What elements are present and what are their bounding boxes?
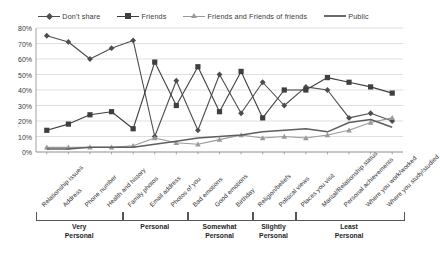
group-bracket-1: Personal — [122, 212, 187, 260]
data-point-marker — [44, 33, 50, 39]
legend-item-1[interactable]: Friends — [117, 12, 166, 21]
y-axis-tick-label: 50% — [18, 71, 32, 78]
legend-marker-diamond-icon — [38, 12, 60, 21]
bracket-shape — [122, 212, 189, 221]
legend-item-2[interactable]: Friends and Friends of friends — [183, 12, 307, 21]
x-axis-category-labels: Relationship issuesAddressPhone numberHe… — [36, 152, 403, 208]
group-bracket-0: VeryPersonal — [36, 212, 122, 260]
data-point-marker — [174, 103, 179, 108]
data-point-marker — [217, 72, 223, 78]
legend-label: Public — [348, 12, 368, 21]
legend-marker-square-icon — [117, 12, 139, 21]
y-axis-tick-label: 20% — [18, 118, 32, 125]
legend-label: Don't share — [62, 12, 100, 21]
bracket-shape — [295, 212, 405, 221]
data-point-marker — [195, 64, 200, 69]
group-label: VeryPersonal — [36, 223, 122, 240]
legend-label: Friends and Friends of friends — [207, 12, 307, 21]
legend-marker-triangle-icon — [183, 12, 205, 21]
data-point-marker — [282, 87, 287, 92]
data-point-marker — [238, 69, 243, 74]
data-point-marker — [152, 60, 157, 65]
legend-marker-none-icon — [324, 12, 346, 21]
data-point-marker — [303, 87, 308, 92]
line-chart-svg — [36, 28, 403, 152]
data-point-marker — [109, 109, 114, 114]
data-point-marker — [173, 78, 179, 84]
legend-item-3[interactable]: Public — [324, 12, 368, 21]
legend-item-0[interactable]: Don't share — [38, 12, 100, 21]
plot-area — [36, 28, 403, 152]
x-axis-category-label: Address — [61, 186, 83, 208]
y-axis-labels: 0%10%20%30%40%50%60%70%80% — [0, 28, 34, 158]
data-point-marker — [260, 115, 265, 120]
data-point-marker — [44, 128, 49, 133]
data-point-marker — [195, 127, 201, 133]
y-axis-tick-label: 70% — [18, 40, 32, 47]
group-label: SomewhatPersonal — [187, 223, 252, 240]
series-2 — [44, 115, 395, 149]
series-0 — [44, 33, 395, 140]
y-axis-tick-label: 40% — [18, 87, 32, 94]
legend-label: Friends — [141, 12, 166, 21]
y-axis-tick-label: 30% — [18, 102, 32, 109]
data-point-marker — [66, 122, 71, 127]
y-axis-tick-label: 80% — [18, 25, 32, 32]
data-point-marker — [130, 38, 136, 44]
y-axis-tick-label: 10% — [18, 133, 32, 140]
series-1 — [44, 60, 395, 133]
data-point-marker — [217, 109, 222, 114]
series-line — [47, 36, 392, 137]
chart-legend: Don't shareFriendsFriends and Friends of… — [0, 8, 407, 24]
group-label: Personal — [122, 223, 187, 232]
data-point-marker — [346, 80, 351, 85]
bracket-shape — [252, 212, 297, 221]
data-point-marker — [390, 91, 395, 96]
data-point-marker — [325, 75, 330, 80]
data-point-marker — [368, 84, 373, 89]
series-3 — [47, 119, 392, 148]
series-line — [47, 119, 392, 148]
plot-wrapper: 0%10%20%30%40%50%60%70%80% — [0, 28, 407, 158]
x-axis-category-label: Birthday — [234, 186, 256, 208]
data-point-marker — [368, 110, 374, 116]
data-point-marker — [131, 126, 136, 131]
bracket-shape — [36, 212, 124, 221]
group-label: LeastPersonal — [295, 223, 403, 240]
group-bracket-4: LeastPersonal — [295, 212, 403, 260]
group-bracket-3: SlightlyPersonal — [252, 212, 295, 260]
data-point-marker — [109, 45, 115, 51]
y-axis-tick-label: 60% — [18, 56, 32, 63]
group-bracket-2: SomewhatPersonal — [187, 212, 252, 260]
series-line — [47, 118, 392, 147]
bracket-shape — [187, 212, 254, 221]
data-point-marker — [87, 112, 92, 117]
data-point-marker — [389, 115, 395, 120]
y-axis-tick-label: 0% — [22, 149, 32, 156]
group-label: SlightlyPersonal — [252, 223, 295, 240]
x-axis-group-brackets: VeryPersonalPersonalSomewhatPersonalSlig… — [36, 212, 403, 260]
